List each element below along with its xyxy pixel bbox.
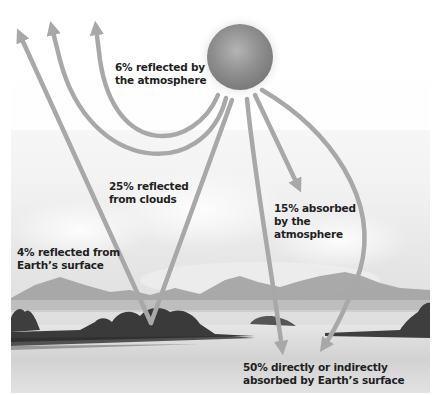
label-reflected-surface: 4% reflected from Earth’s surface bbox=[17, 246, 120, 272]
energy-budget-scene bbox=[0, 0, 437, 395]
label-absorbed-atmosphere: 15% absorbed by the atmosphere bbox=[274, 202, 356, 241]
sun-icon bbox=[196, 13, 284, 101]
label-reflected-clouds: 25% reflected from clouds bbox=[109, 180, 189, 206]
label-absorbed-surface: 50% directly or indirectly absorbed by E… bbox=[243, 361, 404, 387]
label-reflected-atmosphere: 6% reflected by the atmosphere bbox=[115, 61, 206, 87]
